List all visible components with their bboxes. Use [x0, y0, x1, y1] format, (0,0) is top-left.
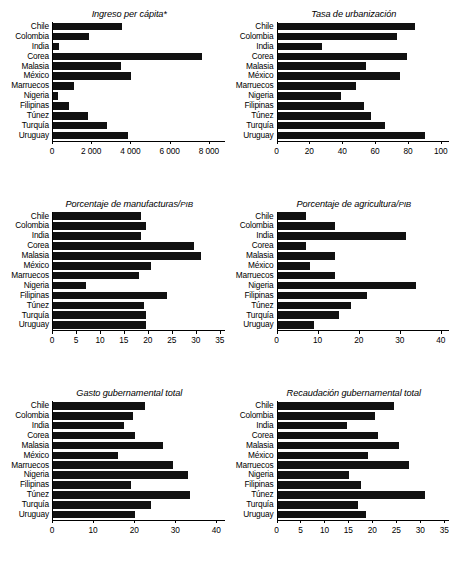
- bar: [53, 262, 151, 270]
- axis-tick-label: 20: [130, 525, 139, 535]
- axis-line: [277, 141, 449, 142]
- chart-title: Gasto gubernamental total: [0, 379, 225, 401]
- bar-track: [277, 71, 449, 81]
- bar-track: [277, 52, 449, 62]
- bar-track: [52, 91, 225, 101]
- bar: [278, 501, 359, 509]
- bar-track: [52, 470, 225, 480]
- bar-track: [52, 52, 225, 62]
- axis-tick-label: 30: [171, 525, 180, 535]
- plot-area: ChileColombiaIndiaCoreaMalasiaMéxicoMarr…: [225, 22, 449, 157]
- bar-track: [52, 101, 225, 111]
- bar: [53, 242, 194, 250]
- bar-track: [52, 22, 225, 32]
- bar-track: [277, 480, 449, 490]
- bar-rows: ChileColombiaIndiaCoreaMalasiaMéxicoMarr…: [225, 401, 449, 520]
- bar-track: [277, 320, 449, 330]
- ticklabel-spacer: [225, 524, 277, 536]
- axis-tick-label: 25: [392, 525, 401, 535]
- bar-track: [277, 221, 449, 231]
- axis-line: [52, 520, 225, 521]
- bar: [278, 272, 335, 280]
- axis-tick-label: 30: [191, 335, 200, 345]
- bar-track: [277, 241, 449, 251]
- bar: [278, 43, 322, 51]
- bar-row: Uruguay: [225, 320, 449, 330]
- bar: [53, 122, 107, 130]
- ticklabel-wrap: 05101520253035: [277, 524, 449, 536]
- bar: [278, 92, 342, 100]
- bar-rows: ChileColombiaIndiaCoreaMalasiaMéxicoMarr…: [225, 22, 449, 141]
- bar: [53, 212, 141, 220]
- axis-tick-labels: 010203040: [225, 334, 449, 346]
- bar: [53, 302, 144, 310]
- bar: [53, 491, 190, 499]
- axis-tick-label: 60: [371, 146, 380, 156]
- bar: [53, 23, 122, 31]
- axis-tick-label: 30: [416, 525, 425, 535]
- bar-track: [52, 510, 225, 520]
- bar: [278, 242, 307, 250]
- ticklabel-spacer: [225, 334, 277, 346]
- chart-panel-5: Gasto gubernamental totalChileColombiaIn…: [0, 379, 225, 569]
- bar: [53, 402, 145, 410]
- axis-tick-label: 10: [313, 335, 322, 345]
- bar-track: [277, 421, 449, 431]
- axis-tick-label: 80: [403, 146, 412, 156]
- bar: [278, 222, 335, 230]
- chart-panel-4: Porcentaje de agricultura/PIBChileColomb…: [225, 190, 449, 380]
- bar: [53, 471, 188, 479]
- bar: [278, 252, 335, 260]
- axis-tick-label: 5: [298, 525, 303, 535]
- bar-track: [52, 461, 225, 471]
- chart-title: Ingreso per cápita*: [0, 0, 225, 22]
- bar-track: [52, 261, 225, 271]
- bar-track: [277, 291, 449, 301]
- axis-tick-label: 2 000: [81, 146, 101, 156]
- bar: [53, 53, 202, 61]
- bar-track: [277, 271, 449, 281]
- bar: [53, 62, 121, 70]
- bar-track: [277, 81, 449, 91]
- axis-tick-label: 40: [212, 525, 221, 535]
- axis-tick-label: 6 000: [159, 146, 179, 156]
- chart-title: Porcentaje de agricultura/PIB: [225, 190, 449, 212]
- bar: [278, 33, 397, 41]
- bar: [53, 282, 86, 290]
- bar-track: [277, 231, 449, 241]
- axis-tick-labels: 05101520253035: [0, 334, 225, 346]
- chart-panel-3: Porcentaje de manufacturas/PIBChileColom…: [0, 190, 225, 380]
- bar: [278, 302, 352, 310]
- plot-area: ChileColombiaIndiaCoreaMalasiaMéxicoMarr…: [225, 212, 449, 347]
- bar: [278, 132, 425, 140]
- ticklabel-wrap: 02 0004 0006 0008 000: [52, 145, 225, 157]
- bar-track: [277, 461, 449, 471]
- bar: [278, 481, 361, 489]
- bar-track: [277, 131, 449, 141]
- bar: [278, 471, 349, 479]
- bar-track: [277, 500, 449, 510]
- bar-track: [52, 251, 225, 261]
- bar-track: [277, 32, 449, 42]
- bar-track: [52, 421, 225, 431]
- bar-track: [277, 301, 449, 311]
- bar: [53, 501, 151, 509]
- figure-panel-grid: Ingreso per cápita*ChileColombiaIndiaCor…: [0, 0, 449, 569]
- axis-tick-label: 0: [50, 146, 55, 156]
- plot-area: ChileColombiaIndiaCoreaMalasiaMéxicoMarr…: [0, 22, 225, 157]
- axis-tick-labels: 010203040: [0, 524, 225, 536]
- bar-row: Uruguay: [0, 131, 225, 141]
- bar-track: [52, 281, 225, 291]
- axis-tick-labels: 02 0004 0006 0008 000: [0, 145, 225, 157]
- chart-title: Tasa de urbanización: [225, 0, 449, 22]
- bar-track: [52, 42, 225, 52]
- bar: [278, 422, 347, 430]
- bar: [278, 311, 339, 319]
- ticklabel-wrap: 020406080100: [277, 145, 449, 157]
- bar-track: [277, 111, 449, 121]
- bar-rows: ChileColombiaIndiaCoreaMalasiaMéxicoMarr…: [0, 212, 225, 331]
- bar: [278, 491, 426, 499]
- bar-track: [277, 212, 449, 222]
- bar: [278, 72, 401, 80]
- bar-track: [277, 101, 449, 111]
